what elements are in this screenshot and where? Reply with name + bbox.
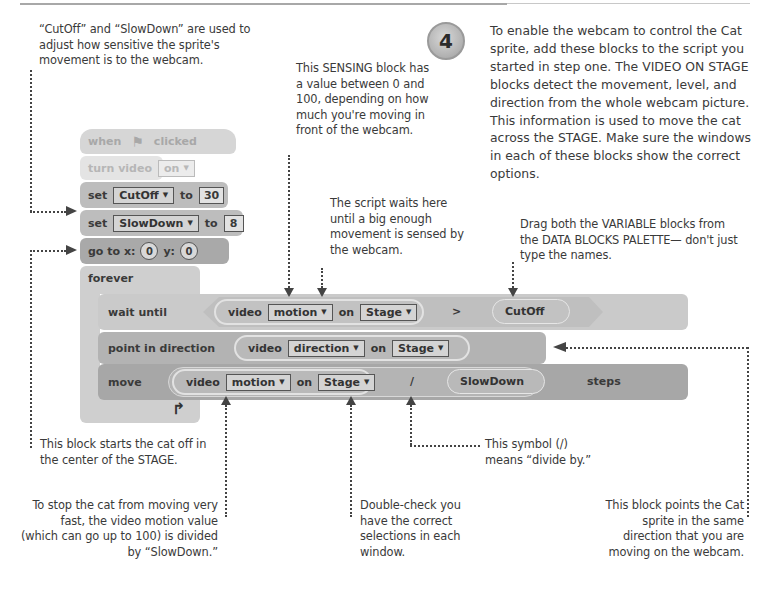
- on-label: on: [297, 376, 312, 389]
- video-direction-reporter[interactable]: video direction▼ on Stage▼: [234, 335, 470, 361]
- forever-block-bottom: ↱: [80, 397, 200, 423]
- on-label: on: [371, 342, 386, 355]
- arrow-up-icon: [221, 396, 231, 405]
- y-label: y:: [163, 245, 175, 258]
- slowdown-variable-name: SlowDown: [119, 217, 183, 230]
- arrow-down-icon: [317, 288, 327, 297]
- to-label: to: [205, 217, 218, 230]
- on-label: on: [339, 306, 354, 319]
- video-motion-reporter[interactable]: video motion▼ on Stage▼: [172, 369, 372, 395]
- note-slowdown: To stop the cat from moving very fast, t…: [20, 498, 218, 560]
- stage-dropdown[interactable]: Stage▼: [318, 374, 375, 391]
- motion-dropdown[interactable]: motion▼: [226, 374, 291, 391]
- motion-option: motion: [274, 306, 317, 319]
- y-value-input[interactable]: 0: [180, 242, 198, 260]
- go-to-xy-block[interactable]: go to x: 0 y: 0: [80, 238, 229, 264]
- dropdown-arrow-icon: ▼: [438, 344, 443, 352]
- connector-line: [30, 70, 32, 212]
- dropdown-arrow-icon: ▼: [364, 378, 369, 386]
- connector-line: [512, 262, 514, 288]
- connector-line: [410, 405, 412, 445]
- direction-dropdown[interactable]: direction▼: [288, 340, 365, 357]
- dropdown-arrow-icon: ▼: [321, 308, 326, 316]
- stage-dropdown[interactable]: Stage▼: [360, 304, 417, 321]
- video-motion-reporter[interactable]: video motion▼ on Stage▼: [214, 299, 424, 325]
- step-instructions: To enable the webcam to control the Cat …: [490, 22, 760, 183]
- cutoff-variable-name: CutOff: [119, 189, 158, 202]
- turn-video-label: turn video: [88, 162, 152, 175]
- connector-line: [410, 445, 480, 447]
- note-center: This block starts the cat off in the cen…: [40, 437, 210, 468]
- set-label: set: [88, 189, 107, 202]
- set-slowdown-block[interactable]: set SlowDown▼ to 8: [80, 210, 243, 236]
- note-sensing: This SENSING block has a value between 0…: [296, 61, 431, 139]
- stage-dropdown[interactable]: Stage▼: [392, 340, 449, 357]
- move-label: move: [108, 376, 142, 389]
- connector-line: [288, 155, 290, 288]
- slowdown-variable-dropdown[interactable]: SlowDown▼: [113, 215, 198, 232]
- video-state-dropdown[interactable]: on▼: [158, 160, 195, 177]
- video-label: video: [186, 376, 220, 389]
- note-double-check: Double-check you have the correct select…: [360, 498, 480, 560]
- dropdown-arrow-icon: ▼: [353, 344, 358, 352]
- arrow-left-icon: [553, 342, 566, 352]
- dropdown-arrow-icon: ▼: [187, 219, 192, 227]
- arrow-up-icon: [406, 396, 416, 405]
- connector-line: [747, 347, 749, 517]
- steps-label: steps: [587, 375, 621, 388]
- connector-line: [30, 211, 66, 213]
- stage-option: Stage: [398, 342, 434, 355]
- video-state-value: on: [164, 162, 179, 175]
- connector-line: [566, 347, 748, 349]
- arrow-up-icon: [346, 396, 356, 405]
- set-label: set: [88, 217, 107, 230]
- top-rule: [20, 3, 507, 5]
- to-label: to: [180, 189, 193, 202]
- connector-line: [30, 250, 32, 448]
- when-flag-clicked-block[interactable]: when ⚑ clicked: [80, 129, 236, 154]
- arrow-down-icon: [508, 288, 518, 297]
- note-variables: “CutOff” and “SlowDown” are used to adju…: [39, 22, 274, 69]
- video-label: video: [248, 342, 282, 355]
- greater-than-symbol: >: [452, 305, 461, 318]
- dropdown-arrow-icon: ▼: [183, 164, 188, 172]
- slowdown-value-input[interactable]: 8: [224, 215, 244, 232]
- point-in-direction-label: point in direction: [108, 342, 215, 355]
- when-label: when: [88, 135, 121, 148]
- loop-arrow-icon: ↱: [172, 399, 185, 418]
- dropdown-arrow-icon: ▼: [406, 308, 411, 316]
- stage-option: Stage: [366, 306, 402, 319]
- x-value-input[interactable]: 0: [140, 242, 158, 260]
- note-direction: This block points the Cat sprite in the …: [598, 498, 744, 560]
- motion-option: motion: [232, 376, 275, 389]
- video-label: video: [228, 306, 262, 319]
- connector-line: [225, 405, 227, 517]
- arrow-right-icon: [66, 206, 77, 216]
- note-drag-variables: Drag both the VARIABLE blocks from the D…: [520, 217, 740, 264]
- set-cutoff-block[interactable]: set CutOff▼ to 30: [80, 182, 228, 208]
- clicked-label: clicked: [154, 135, 197, 148]
- turn-video-block[interactable]: turn video on▼: [80, 156, 163, 180]
- note-script-waits: The script waits here until a big enough…: [330, 196, 465, 258]
- direction-option: direction: [294, 342, 349, 355]
- cutoff-variable-dropdown[interactable]: CutOff▼: [113, 187, 174, 204]
- arrow-down-icon: [284, 288, 294, 297]
- green-flag-icon: ⚑: [131, 134, 144, 150]
- dropdown-arrow-icon: ▼: [279, 378, 284, 386]
- wait-until-label: wait until: [108, 306, 167, 319]
- dropdown-arrow-icon: ▼: [163, 191, 168, 199]
- connector-line: [30, 250, 66, 252]
- motion-dropdown[interactable]: motion▼: [268, 304, 333, 321]
- step-number-badge: 4: [427, 22, 465, 60]
- stage-option: Stage: [324, 376, 360, 389]
- go-to-x-label: go to x:: [88, 245, 135, 258]
- cutoff-variable-reporter[interactable]: CutOff: [492, 299, 570, 324]
- divide-symbol: /: [410, 375, 414, 388]
- connector-line: [350, 405, 352, 517]
- slowdown-variable-reporter[interactable]: SlowDown: [447, 369, 545, 394]
- step-number: 4: [439, 29, 453, 53]
- forever-block-arm: [80, 290, 100, 400]
- cutoff-value-input[interactable]: 30: [199, 187, 224, 204]
- arrow-right-icon: [66, 245, 77, 255]
- connector-line: [321, 268, 323, 288]
